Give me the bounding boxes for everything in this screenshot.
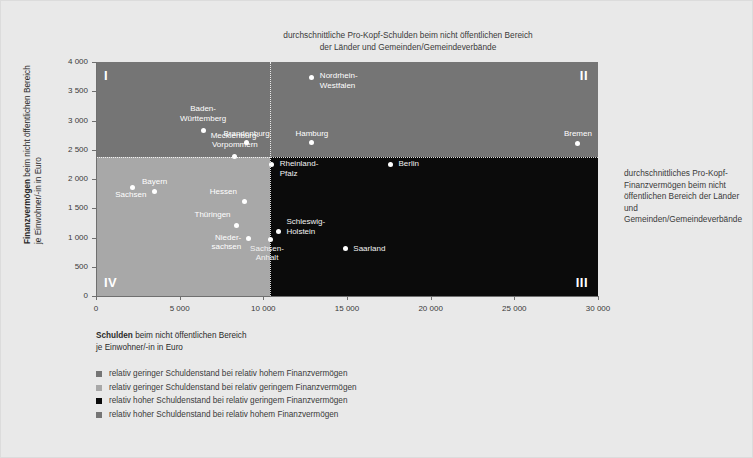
- y-tick-label: 3 000: [44, 116, 88, 125]
- plot-area: I II III IV Nordrhein-WestfalenBaden-Wür…: [96, 62, 598, 296]
- y-tick-label: 3 500: [44, 86, 88, 95]
- x-tick-label: 30 000: [568, 304, 628, 313]
- chart-right-annotation: durchschnittliches Pro-Kopf-Finanzvermög…: [624, 168, 746, 226]
- x-axis-title-rest: beim nicht öffentlichen Bereich: [133, 331, 247, 340]
- data-label-rheinland-pfalz: Rheinland-Pfalz: [280, 159, 319, 178]
- legend-row: relativ geringer Schuldenstand bei relat…: [96, 382, 516, 396]
- y-tick-mark: [92, 150, 96, 151]
- y-tick-mark: [92, 179, 96, 180]
- label-line: Mecklenburg-: [175, 131, 295, 141]
- y-tick-label: 4 000: [44, 57, 88, 66]
- x-axis-title: Schulden beim nicht öffentlichen Bereich…: [96, 330, 396, 353]
- x-tick-label: 0: [66, 304, 126, 313]
- chart-top-title-line1: durchschnittliche Pro-Kopf-Schulden beim…: [228, 30, 588, 42]
- data-point-schleswig-holstein[interactable]: [276, 229, 281, 234]
- label-line: Schleswig-: [286, 217, 325, 227]
- label-line: Sachsen-: [207, 244, 327, 254]
- quadrant-label-3: III: [576, 275, 588, 290]
- label-line: Saarland: [353, 244, 385, 254]
- data-label-hessen: Hessen: [117, 187, 237, 197]
- data-label-bayern: Bayern: [95, 177, 215, 187]
- label-line: Hessen: [117, 187, 237, 197]
- label-line: Rheinland-: [280, 159, 319, 169]
- chart-top-title: durchschnittliche Pro-Kopf-Schulden beim…: [228, 30, 588, 53]
- label-line: Bayern: [95, 177, 215, 187]
- y-tick-label: 1 000: [44, 233, 88, 242]
- chart-canvas: durchschnittliche Pro-Kopf-Schulden beim…: [0, 0, 753, 458]
- label-line: Baden-: [143, 104, 263, 114]
- x-axis-title-bold: Schulden: [96, 331, 133, 340]
- data-label-sachsen-anhalt: Sachsen-Anhalt: [207, 244, 327, 263]
- data-point-sachsen-anhalt[interactable]: [268, 237, 273, 242]
- legend-swatch: [96, 371, 102, 377]
- legend-row: relativ geringer Schuldenstand bei relat…: [96, 368, 516, 382]
- quadrant-label-2: II: [580, 68, 588, 83]
- y-tick-mark: [92, 121, 96, 122]
- data-label-baden-w-rttemberg: Baden-Württemberg: [143, 104, 263, 123]
- legend-swatch: [96, 398, 102, 404]
- label-line: Nordrhein-: [320, 71, 358, 81]
- y-tick-mark: [92, 208, 96, 209]
- data-label-th-ringen: Thüringen: [111, 210, 231, 220]
- label-line: Westfalen: [320, 81, 358, 91]
- y-tick-label: 2 500: [44, 145, 88, 154]
- y-tick-label: 500: [44, 262, 88, 271]
- legend-swatch: [96, 385, 102, 391]
- legend-label: relativ geringer Schuldenstand bei relat…: [109, 368, 347, 380]
- label-line: Nieder-: [121, 233, 241, 243]
- y-axis-title-rest: beim nicht öffentlichen Bereich: [23, 65, 32, 179]
- x-tick-mark: [263, 296, 264, 300]
- legend-swatch: [96, 412, 102, 418]
- label-line: Anhalt: [207, 253, 327, 263]
- legend-row: relativ hoher Schuldenstand bei relativ …: [96, 409, 516, 423]
- y-axis-title: Finanzvermögen beim nicht öffentlichen B…: [22, 14, 44, 244]
- horizontal-mean-reference-line: [96, 157, 598, 158]
- y-axis-line: [96, 62, 97, 296]
- data-point-th-ringen[interactable]: [234, 223, 239, 228]
- y-tick-label: 2 000: [44, 174, 88, 183]
- data-label-nordrhein-westfalen: Nordrhein-Westfalen: [320, 71, 358, 90]
- label-line: Vorpommern: [175, 140, 295, 150]
- data-point-niedersachsen[interactable]: [246, 236, 251, 241]
- data-point-saarland[interactable]: [343, 246, 348, 251]
- label-line: Pfalz: [280, 169, 319, 179]
- label-line: Württemberg: [143, 114, 263, 124]
- legend-label: relativ geringer Schuldenstand bei relat…: [109, 382, 357, 394]
- y-tick-mark: [92, 238, 96, 239]
- x-tick-mark: [180, 296, 181, 300]
- data-label-saarland: Saarland: [353, 244, 385, 254]
- label-line: Thüringen: [111, 210, 231, 220]
- data-label-schleswig-holstein: Schleswig-Holstein: [286, 217, 325, 236]
- data-label-bremen: Bremen: [518, 129, 638, 139]
- y-tick-mark: [92, 91, 96, 92]
- x-tick-label: 5 000: [150, 304, 210, 313]
- data-point-berlin[interactable]: [388, 162, 393, 167]
- x-tick-label: 15 000: [317, 304, 377, 313]
- quadrant-label-4: IV: [104, 275, 117, 290]
- x-tick-mark: [96, 296, 97, 300]
- x-tick-mark: [514, 296, 515, 300]
- y-axis-title-line1: Finanzvermögen beim nicht öffentlichen B…: [22, 14, 33, 244]
- chart-top-title-line2: der Länder und Gemeinden/Gemeindeverbänd…: [228, 42, 588, 54]
- y-tick-label: 1 500: [44, 203, 88, 212]
- label-line: Holstein: [286, 227, 325, 237]
- x-tick-label: 25 000: [484, 304, 544, 313]
- x-tick-mark: [598, 296, 599, 300]
- legend-label: relativ hoher Schuldenstand bei relativ …: [109, 395, 347, 407]
- y-axis-title-line2: je Einwohner/-in in Euro: [33, 14, 44, 244]
- x-tick-label: 20 000: [401, 304, 461, 313]
- y-tick-mark: [92, 62, 96, 63]
- x-tick-mark: [431, 296, 432, 300]
- quadrant-label-1: I: [104, 68, 108, 83]
- x-tick-mark: [347, 296, 348, 300]
- chart-legend: relativ geringer Schuldenstand bei relat…: [96, 368, 516, 422]
- x-axis-title-line2: je Einwohner/-in in Euro: [96, 342, 396, 354]
- x-tick-label: 10 000: [233, 304, 293, 313]
- label-line: Bremen: [518, 129, 638, 139]
- data-label-berlin: Berlin: [399, 159, 419, 169]
- y-tick-mark: [92, 267, 96, 268]
- y-axis-title-bold: Finanzvermögen: [23, 179, 32, 244]
- x-axis-title-line1: Schulden beim nicht öffentlichen Bereich: [96, 330, 396, 342]
- data-label-mecklenburg-vorpommern: Mecklenburg-Vorpommern: [175, 131, 295, 150]
- legend-label: relativ hoher Schuldenstand bei relativ …: [109, 409, 338, 421]
